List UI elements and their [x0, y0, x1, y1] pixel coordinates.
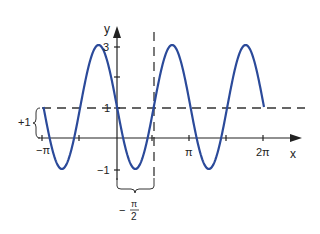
sine-graph: y x 3 1 −1 −π π 2π +1 − π 2: [0, 0, 320, 234]
y-axis-label: y: [104, 22, 110, 36]
y-axis-arrow-icon: [113, 26, 121, 38]
y-tick-minus-1: −1: [97, 164, 110, 176]
phase-shift-numerator: π: [131, 199, 137, 209]
phase-shift-denominator: 2: [131, 211, 137, 222]
vertical-shift-label: +1: [18, 116, 31, 128]
phase-shift-minus: −: [119, 204, 125, 216]
vertical-shift-brace: [33, 108, 40, 138]
x-tick-minus-pi: −π: [36, 144, 50, 156]
phase-shift-brace: [117, 178, 154, 193]
x-tick-pi: π: [185, 146, 193, 158]
x-axis-label: x: [290, 147, 296, 161]
x-tick-2pi: 2π: [256, 146, 270, 158]
x-axis-arrow-icon: [290, 134, 302, 142]
y-tick-1: 1: [104, 102, 110, 114]
y-tick-3: 3: [103, 41, 109, 53]
